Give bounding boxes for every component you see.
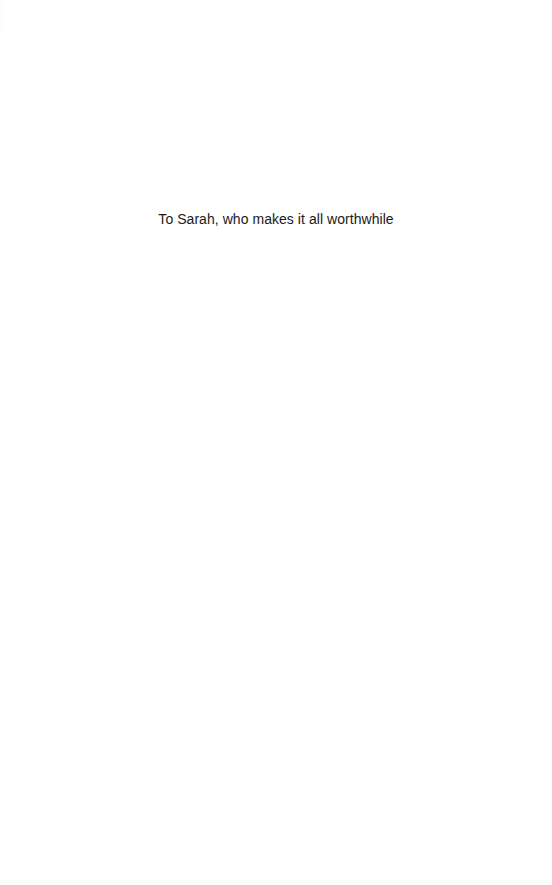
book-page: To Sarah, who makes it all worthwhile	[0, 0, 552, 885]
dedication-text: To Sarah, who makes it all worthwhile	[0, 210, 552, 228]
page-edge-shadow	[0, 0, 6, 30]
